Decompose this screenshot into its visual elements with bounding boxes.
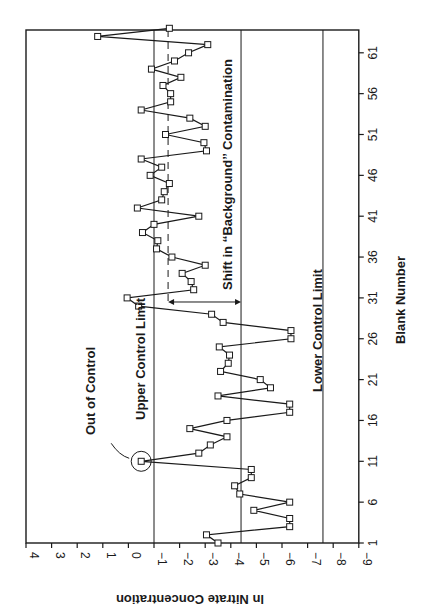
data-point-marker bbox=[287, 409, 293, 415]
data-point-marker bbox=[202, 123, 208, 129]
y-tick-label: 2 bbox=[78, 552, 92, 559]
data-point-marker bbox=[159, 197, 165, 203]
x-tick-label: 31 bbox=[366, 291, 380, 305]
data-point-marker bbox=[124, 295, 130, 301]
data-point-marker bbox=[203, 148, 209, 154]
data-point-marker bbox=[225, 360, 231, 366]
y-tick-label: 3 bbox=[53, 552, 67, 559]
y-tick-label: −6 bbox=[283, 552, 297, 566]
data-point-marker bbox=[224, 434, 230, 440]
data-point-marker bbox=[191, 287, 197, 293]
data-point-marker bbox=[187, 426, 193, 432]
data-point-marker bbox=[168, 99, 174, 105]
y-tick-label: −4 bbox=[232, 552, 246, 566]
data-point-marker bbox=[161, 189, 167, 195]
data-point-marker bbox=[209, 311, 215, 317]
data-point-marker bbox=[169, 254, 175, 260]
data-point-marker bbox=[257, 377, 263, 383]
data-point-marker bbox=[251, 507, 257, 513]
y-tick-label: −2 bbox=[181, 552, 195, 566]
x-tick-label: 61 bbox=[366, 46, 380, 60]
data-point-marker bbox=[288, 336, 294, 342]
data-point-marker bbox=[159, 164, 165, 170]
data-point-marker bbox=[218, 368, 224, 374]
data-point-marker bbox=[196, 213, 202, 219]
data-point-marker bbox=[166, 181, 172, 187]
data-point-marker bbox=[148, 66, 154, 72]
data-point-marker bbox=[138, 458, 144, 464]
shift-contamination-label: Shift in ‘‘Background’’ Contamination bbox=[220, 59, 235, 290]
y-tick-label: −5 bbox=[257, 552, 271, 566]
x-tick-label: 36 bbox=[366, 250, 380, 264]
data-point-marker bbox=[207, 442, 213, 448]
data-point-marker bbox=[215, 540, 221, 546]
y-tick-label: −1 bbox=[155, 552, 169, 566]
upper-control-limit-label: Upper Control Limit bbox=[133, 297, 148, 420]
x-tick-label: 56 bbox=[366, 87, 380, 101]
data-point-marker bbox=[248, 466, 254, 472]
data-point-marker bbox=[187, 115, 193, 121]
data-point-marker bbox=[216, 344, 222, 350]
x-tick-label: 16 bbox=[366, 413, 380, 427]
data-point-marker bbox=[215, 393, 221, 399]
data-point-marker bbox=[168, 91, 174, 97]
data-point-marker bbox=[220, 319, 226, 325]
y-tick-label: 1 bbox=[104, 552, 118, 559]
data-point-marker bbox=[205, 42, 211, 48]
data-point-marker bbox=[179, 270, 185, 276]
data-point-marker bbox=[138, 107, 144, 113]
data-point-marker bbox=[138, 156, 144, 162]
data-point-marker bbox=[151, 221, 157, 227]
data-point-marker bbox=[139, 230, 145, 236]
data-point-marker bbox=[287, 515, 293, 521]
data-point-marker bbox=[237, 491, 243, 497]
data-point-marker bbox=[166, 25, 172, 31]
data-point-marker bbox=[287, 524, 293, 530]
y-tick-label: −8 bbox=[334, 552, 348, 566]
data-point-marker bbox=[155, 238, 161, 244]
reference-lines bbox=[154, 30, 323, 543]
data-point-marker bbox=[134, 205, 140, 211]
data-point-marker bbox=[227, 352, 233, 358]
data-point-marker bbox=[188, 279, 194, 285]
data-point-marker bbox=[287, 499, 293, 505]
y-tick-label: 4 bbox=[27, 552, 41, 559]
x-tick-label: 6 bbox=[366, 498, 380, 505]
y-tick-label: −3 bbox=[206, 552, 220, 566]
data-point-marker bbox=[178, 74, 184, 80]
data-point-marker bbox=[201, 140, 207, 146]
series-line bbox=[98, 28, 291, 543]
x-tick-label: 46 bbox=[366, 168, 380, 182]
data-point-marker bbox=[287, 401, 293, 407]
data-series bbox=[95, 25, 294, 546]
data-point-marker bbox=[160, 82, 166, 88]
data-point-marker bbox=[196, 450, 202, 456]
y-tick-label: −9 bbox=[360, 552, 374, 566]
y-axis-label: ln Nitrate Concentration bbox=[116, 592, 264, 607]
x-tick-label: 1 bbox=[366, 539, 380, 546]
out-of-control-label: Out of Control bbox=[83, 347, 98, 435]
lower-control-limit-label: Lower Control Limit bbox=[310, 269, 325, 392]
data-point-marker bbox=[224, 417, 230, 423]
data-point-marker bbox=[248, 475, 254, 481]
data-point-marker bbox=[147, 172, 153, 178]
data-point-marker bbox=[232, 483, 238, 489]
data-point-marker bbox=[203, 532, 209, 538]
data-point-marker bbox=[95, 33, 101, 39]
data-point-marker bbox=[171, 58, 177, 64]
data-point-marker bbox=[163, 132, 169, 138]
callout-arrow bbox=[111, 443, 129, 458]
data-point-marker bbox=[202, 262, 208, 268]
y-tick-label: 0 bbox=[129, 552, 143, 559]
control-chart: 43210−1−2−3−4−5−6−7−8−916111621263136414… bbox=[0, 0, 424, 615]
x-tick-label: 11 bbox=[366, 455, 380, 468]
x-tick-label: 51 bbox=[366, 128, 380, 142]
data-point-marker bbox=[186, 50, 192, 56]
x-tick-label: 41 bbox=[366, 209, 380, 223]
y-tick-label: −7 bbox=[309, 552, 323, 566]
data-point-marker bbox=[267, 385, 273, 391]
x-tick-label: 26 bbox=[366, 332, 380, 346]
x-axis-label: Blank Number bbox=[393, 256, 408, 344]
data-point-marker bbox=[288, 328, 294, 334]
x-tick-label: 21 bbox=[366, 373, 380, 387]
